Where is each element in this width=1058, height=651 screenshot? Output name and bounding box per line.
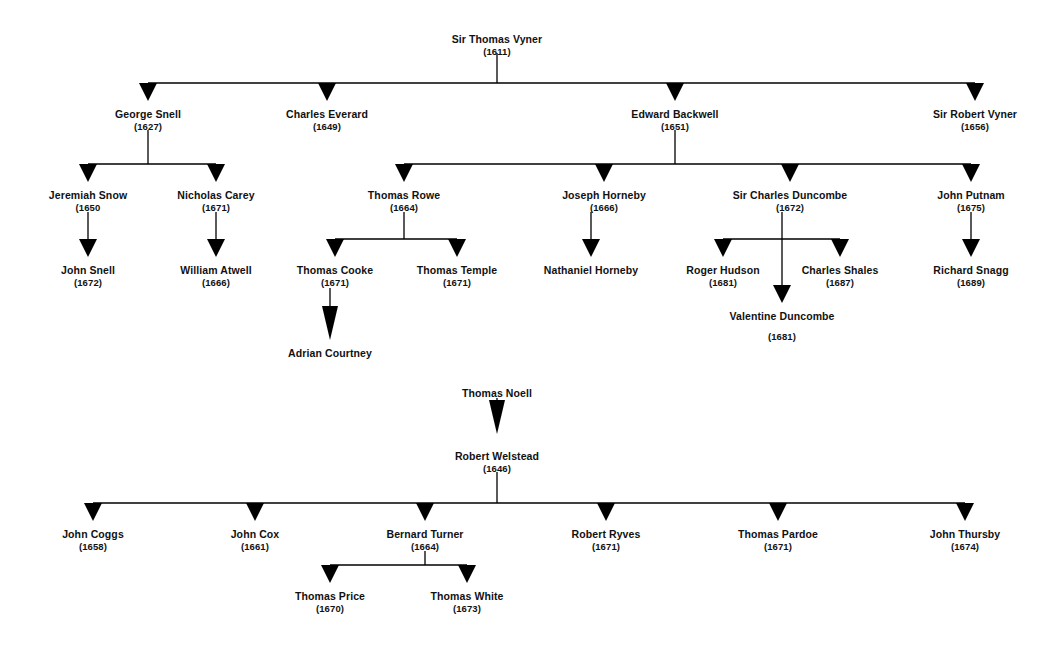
- node-year: (1671): [738, 542, 818, 553]
- tree-node[interactable]: Nicholas Carey (1671): [177, 190, 254, 213]
- arrowhead-icon: [489, 400, 505, 434]
- arrowhead-icon: [962, 164, 980, 182]
- node-name: Edward Backwell: [631, 109, 718, 121]
- node-name: Thomas Temple: [417, 265, 497, 277]
- tree-node[interactable]: Thomas Temple (1671): [417, 265, 497, 288]
- node-name: Richard Snagg: [933, 265, 1008, 277]
- tree-node[interactable]: Roger Hudson (1681): [686, 265, 760, 288]
- tree-node[interactable]: John Snell (1672): [61, 265, 115, 288]
- tree-node[interactable]: George Snell (1627): [115, 109, 181, 132]
- arrowhead-icon: [207, 164, 225, 182]
- node-name: Thomas Cooke: [297, 265, 373, 277]
- arrowhead-icon: [956, 503, 974, 521]
- arrowhead-icon: [139, 83, 157, 101]
- arrowhead-icon: [666, 83, 684, 101]
- arrowhead-icon: [246, 503, 264, 521]
- arrowhead-icon: [318, 83, 336, 101]
- tree-node[interactable]: Thomas Noell: [462, 388, 532, 400]
- node-year: (1671): [297, 278, 373, 289]
- arrowhead-icon: [395, 164, 413, 182]
- node-name: Thomas Rowe: [368, 190, 440, 202]
- tree-node[interactable]: Thomas Cooke (1671): [297, 265, 373, 288]
- arrowhead-icon: [966, 83, 984, 101]
- arrowhead-icon: [773, 285, 791, 303]
- node-year: (1671): [177, 203, 254, 214]
- tree-node[interactable]: John Cox (1661): [231, 529, 280, 552]
- node-year: (1656): [933, 122, 1017, 133]
- node-name: Adrian Courtney: [288, 348, 372, 360]
- tree-node[interactable]: Thomas White (1673): [431, 591, 504, 614]
- node-name: Nathaniel Horneby: [544, 265, 638, 277]
- tree-node[interactable]: Thomas Rowe (1664): [368, 190, 440, 213]
- arrowhead-icon: [84, 503, 102, 521]
- node-name: Nicholas Carey: [177, 190, 254, 202]
- arrowhead-icon: [321, 565, 339, 583]
- node-name: William Atwell: [180, 265, 252, 277]
- tree-node[interactable]: Jeremiah Snow (1650: [49, 190, 127, 213]
- node-year: (1687): [802, 278, 879, 289]
- node-year: (1671): [417, 278, 497, 289]
- node-name: John Cox: [231, 529, 280, 541]
- tree-node[interactable]: John Thursby (1674): [930, 529, 1001, 552]
- node-name: George Snell: [115, 109, 181, 121]
- node-year: (1666): [562, 203, 646, 214]
- tree-node[interactable]: John Coggs (1658): [62, 529, 124, 552]
- arrowhead-icon: [79, 164, 97, 182]
- arrowhead-icon: [714, 239, 732, 257]
- node-name: Sir Robert Vyner: [933, 109, 1017, 121]
- node-year: (1689): [933, 278, 1008, 289]
- tree-node[interactable]: Valentine Duncombe (1681): [729, 311, 834, 342]
- node-name: John Snell: [61, 265, 115, 277]
- node-year: (1649): [286, 122, 368, 133]
- node-year: (1671): [572, 542, 641, 553]
- tree-node[interactable]: Charles Shales (1687): [802, 265, 879, 288]
- node-year: (1664): [386, 542, 463, 553]
- tree-node[interactable]: Thomas Price (1670): [295, 591, 365, 614]
- node-name: John Thursby: [930, 529, 1001, 541]
- node-year: (1666): [180, 278, 252, 289]
- edge-layer: [0, 0, 1058, 651]
- node-name: Thomas Pardoe: [738, 529, 818, 541]
- tree-node[interactable]: Edward Backwell (1651): [631, 109, 718, 132]
- node-year: (1661): [231, 542, 280, 553]
- tree-node[interactable]: Richard Snagg (1689): [933, 265, 1008, 288]
- arrowhead-icon: [597, 503, 615, 521]
- tree-node[interactable]: John Putnam (1675): [937, 190, 1005, 213]
- node-name: Thomas White: [431, 591, 504, 603]
- arrowhead-icon: [962, 239, 980, 257]
- tree-node[interactable]: Joseph Horneby (1666): [562, 190, 646, 213]
- tree-node[interactable]: Robert Welstead (1646): [455, 451, 539, 474]
- node-year: (1651): [631, 122, 718, 133]
- node-year: (1646): [455, 464, 539, 475]
- arrowhead-icon: [458, 565, 476, 583]
- arrowhead-icon: [831, 239, 849, 257]
- tree-node[interactable]: Adrian Courtney: [288, 348, 372, 360]
- node-year: (1675): [937, 203, 1005, 214]
- tree-node[interactable]: Sir Thomas Vyner (1611): [452, 34, 543, 57]
- tree-node[interactable]: Sir Charles Duncombe (1672): [733, 190, 848, 213]
- diagram-canvas: Sir Thomas Vyner (1611) George Snell (16…: [0, 0, 1058, 651]
- node-year: (1681): [686, 278, 760, 289]
- tree-node[interactable]: Sir Robert Vyner (1656): [933, 109, 1017, 132]
- node-name: Thomas Price: [295, 591, 365, 603]
- arrowhead-icon: [595, 164, 613, 182]
- node-name: Robert Welstead: [455, 451, 539, 463]
- tree-node[interactable]: William Atwell (1666): [180, 265, 252, 288]
- node-year: (1672): [733, 203, 848, 214]
- node-year: (1627): [115, 122, 181, 133]
- tree-node[interactable]: Thomas Pardoe (1671): [738, 529, 818, 552]
- arrowhead-icon: [207, 239, 225, 257]
- node-year: (1664): [368, 203, 440, 214]
- tree-node[interactable]: Bernard Turner (1664): [386, 529, 463, 552]
- node-name: John Putnam: [937, 190, 1005, 202]
- tree-node[interactable]: Nathaniel Horneby: [544, 265, 638, 277]
- node-year: (1670): [295, 604, 365, 615]
- node-name: Joseph Horneby: [562, 190, 646, 202]
- tree-node[interactable]: Robert Ryves (1671): [572, 529, 641, 552]
- node-year: (1673): [431, 604, 504, 615]
- arrowhead-icon: [582, 239, 600, 257]
- node-year: (1611): [452, 47, 543, 58]
- node-name: Sir Charles Duncombe: [733, 190, 848, 202]
- tree-node[interactable]: Charles Everard (1649): [286, 109, 368, 132]
- edges-noell-tree: [84, 398, 974, 583]
